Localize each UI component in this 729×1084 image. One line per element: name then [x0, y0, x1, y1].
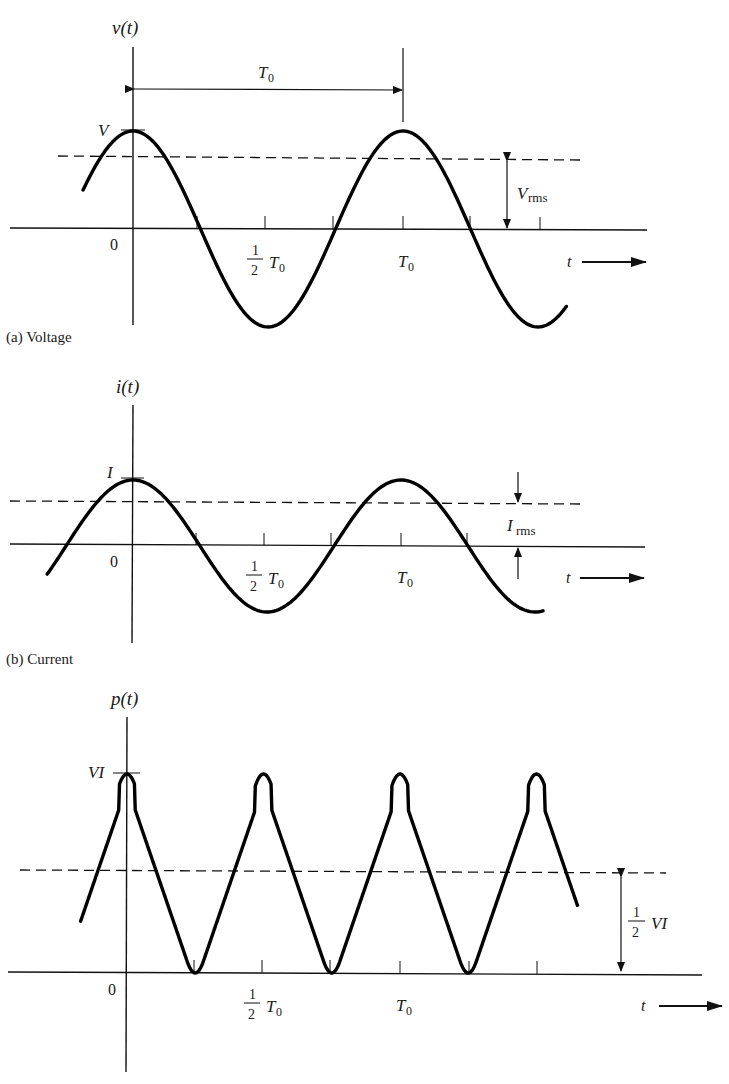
- figure-canvas: v(t) V 0 1 2 T 0 T 0 T 0 V rms t (a) Vol…: [0, 0, 729, 1084]
- x-ticks: [196, 533, 467, 546]
- panel-caption: (b) Current: [6, 651, 74, 668]
- y-axis-label: p(t): [109, 688, 138, 710]
- panel-power: p(t) VI 0 1 2 T 0 T 0 1 2 VI t: [8, 688, 722, 1072]
- origin-label: 0: [108, 981, 116, 998]
- svg-text:1: 1: [252, 243, 259, 258]
- avg-label: 1 2 VI: [628, 905, 668, 940]
- x-axis: [8, 972, 702, 975]
- period-arrow: [134, 89, 402, 90]
- panel-caption: (a) Voltage: [6, 329, 72, 346]
- peak-label: V: [98, 121, 111, 140]
- panel-voltage: v(t) V 0 1 2 T 0 T 0 T 0 V rms t (a) Vol…: [6, 17, 647, 346]
- svg-text:2: 2: [248, 1007, 255, 1022]
- origin-label: 0: [110, 236, 118, 253]
- rms-label: V rms: [517, 184, 548, 205]
- svg-text:rms: rms: [516, 523, 536, 538]
- svg-text:0: 0: [278, 577, 284, 591]
- half-period-label: 1 2 T 0: [244, 987, 282, 1022]
- rms-label: I rms: [506, 516, 536, 538]
- half-period-label: 1 2 T 0: [246, 559, 284, 594]
- svg-text:VI: VI: [651, 914, 668, 933]
- svg-text:1: 1: [251, 559, 258, 574]
- svg-text:2: 2: [632, 925, 639, 940]
- svg-text:2: 2: [250, 579, 257, 594]
- panel-current: i(t) I 0 1 2 T 0 T 0 I rms t (b) Current: [6, 376, 645, 668]
- svg-text:0: 0: [408, 260, 414, 274]
- svg-text:0: 0: [268, 71, 274, 85]
- y-axis-label: i(t): [116, 376, 139, 398]
- power-curve: [81, 774, 578, 973]
- rms-dashed-line: [58, 156, 580, 160]
- svg-text:1: 1: [633, 905, 640, 920]
- x-ticks: [197, 216, 540, 230]
- svg-text:0: 0: [406, 1004, 412, 1018]
- peak-label: I: [106, 463, 114, 482]
- y-axis: [126, 717, 127, 1072]
- t-label: t: [641, 997, 646, 1014]
- x-axis: [10, 228, 647, 230]
- x-ticks: [194, 960, 537, 974]
- period-tick-label: T 0: [396, 996, 412, 1018]
- x-axis: [10, 544, 645, 547]
- period-tick-label: T 0: [398, 252, 414, 274]
- avg-dashed-line: [20, 870, 666, 873]
- period-arrow-label: T 0: [258, 63, 274, 85]
- svg-text:rms: rms: [528, 190, 548, 205]
- svg-text:1: 1: [249, 987, 256, 1002]
- peak-label: VI: [88, 763, 105, 782]
- y-axis: [132, 405, 133, 643]
- svg-text:0: 0: [279, 261, 285, 275]
- svg-text:0: 0: [407, 576, 413, 590]
- y-axis-label: v(t): [112, 17, 138, 39]
- origin-label: 0: [110, 553, 118, 570]
- svg-text:0: 0: [276, 1005, 282, 1019]
- t-label: t: [567, 253, 572, 270]
- t-label: t: [566, 569, 571, 586]
- svg-text:2: 2: [251, 263, 258, 278]
- svg-text:I: I: [506, 516, 514, 535]
- half-period-label: 1 2 T 0: [247, 243, 285, 278]
- period-tick-label: T 0: [397, 568, 413, 590]
